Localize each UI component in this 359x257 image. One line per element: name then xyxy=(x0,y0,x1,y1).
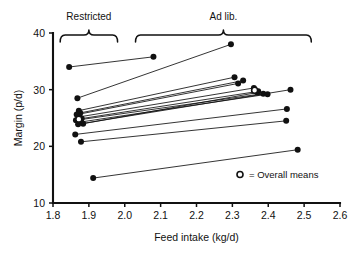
chart-figure: RestrictedAd lib. 1.81.92.02.12.22.32.42… xyxy=(0,0,359,257)
group-braces xyxy=(60,30,311,42)
x-tick-label-8: 2.6 xyxy=(333,209,348,221)
scatter-plot-canvas: RestrictedAd lib. 1.81.92.02.12.22.32.42… xyxy=(0,0,359,257)
data-point-adlib xyxy=(232,74,238,80)
data-point-restricted xyxy=(72,131,78,137)
y-tick-label-1: 20 xyxy=(33,140,45,152)
pair-line xyxy=(80,88,254,117)
data-point-adlib xyxy=(287,87,293,93)
brace-1 xyxy=(136,30,312,42)
pair-line xyxy=(77,83,238,114)
pair-connector-lines xyxy=(69,44,298,178)
pair-line xyxy=(79,77,235,110)
data-point-restricted xyxy=(90,175,96,181)
x-tick-label-5: 2.3 xyxy=(225,209,240,221)
pair-line xyxy=(81,121,286,142)
data-point-adlib xyxy=(283,118,289,124)
y-tick-label-2: 30 xyxy=(33,84,45,96)
pair-line xyxy=(77,44,231,98)
chart-legend: = Overall means xyxy=(237,169,319,180)
x-tick-labels: 1.81.92.02.12.22.32.42.52.6 xyxy=(46,209,348,221)
legend-label: = Overall means xyxy=(249,169,319,180)
overall-mean-points xyxy=(76,87,258,122)
overall-mean-marker-0 xyxy=(76,116,82,122)
x-tick-label-2: 2.0 xyxy=(117,209,132,221)
x-tick-label-4: 2.2 xyxy=(189,209,204,221)
x-tick-label-0: 1.8 xyxy=(46,209,61,221)
y-axis-title: Margin (p/d) xyxy=(12,90,24,147)
group-labels: RestrictedAd lib. xyxy=(66,11,237,22)
data-point-restricted xyxy=(78,139,84,145)
x-tick-label-1: 1.9 xyxy=(82,209,97,221)
data-point-adlib xyxy=(235,80,241,86)
x-axis-title: Feed intake (kg/d) xyxy=(154,231,239,243)
data-point-restricted xyxy=(74,95,80,101)
group-label-1: Ad lib. xyxy=(210,11,238,22)
data-point-adlib xyxy=(265,91,271,97)
y-tick-label-3: 40 xyxy=(33,27,45,39)
x-tick-label-7: 2.5 xyxy=(297,209,312,221)
pair-line xyxy=(76,94,263,121)
data-point-adlib xyxy=(150,54,156,60)
pair-line xyxy=(75,109,287,135)
data-point-adlib xyxy=(295,147,301,153)
overall-mean-marker-1 xyxy=(252,87,258,93)
y-tick-label-0: 10 xyxy=(33,197,45,209)
legend-open-circle-icon xyxy=(237,172,243,178)
y-tick-labels: 10203040 xyxy=(33,27,45,209)
data-point-adlib xyxy=(228,41,234,47)
data-point-adlib xyxy=(284,106,290,112)
x-tick-label-3: 2.1 xyxy=(153,209,168,221)
data-point-restricted xyxy=(66,64,72,70)
pair-line xyxy=(69,57,153,67)
data-point-adlib xyxy=(240,78,246,84)
brace-0 xyxy=(60,30,117,42)
group-label-0: Restricted xyxy=(66,11,111,22)
x-tick-label-6: 2.4 xyxy=(261,209,276,221)
